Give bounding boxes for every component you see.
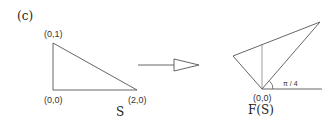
vertex-label-0-0: (0,0) [44, 95, 63, 105]
fs-shape [233, 22, 320, 89]
transform-arrow-icon [138, 59, 199, 71]
transformed-figure-fs [233, 22, 322, 89]
angle-arc [270, 81, 273, 89]
triangle-s-shape [53, 43, 137, 90]
vertex-label-0-1: (0,1) [44, 29, 63, 39]
triangle-s [53, 43, 137, 90]
origin-label: (0,0) [253, 93, 272, 103]
angle-label: π / 4 [283, 80, 298, 87]
figure-name-s: S [116, 105, 124, 119]
figure-name-fs: F(S) [248, 103, 274, 117]
panel-label: (c) [17, 9, 33, 23]
diagram-canvas: (c) (0,1) (0,0) (2,0) S π / 4 (0,0) F(S) [0, 0, 334, 124]
vertex-label-2-0: (2,0) [128, 95, 147, 105]
